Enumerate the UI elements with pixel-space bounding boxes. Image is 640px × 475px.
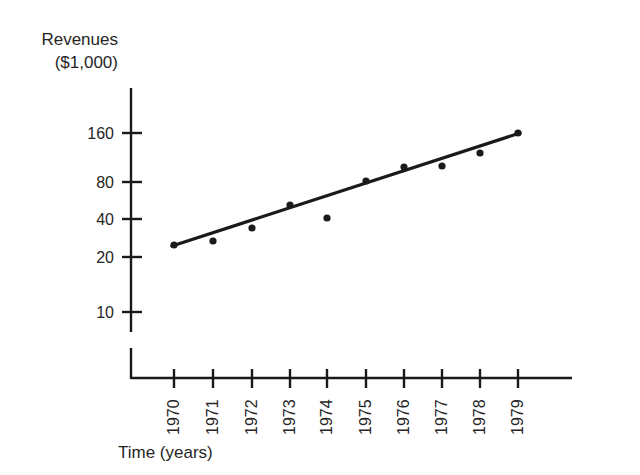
data-point	[209, 237, 216, 244]
y-tick-label-20: 20	[62, 250, 114, 266]
data-point	[248, 224, 255, 231]
y-tick-label-80: 80	[62, 175, 114, 191]
data-point	[514, 129, 521, 136]
x-tick-label-1974: 1974	[319, 399, 335, 435]
data-point	[476, 149, 483, 156]
x-tick-label-1978: 1978	[472, 399, 488, 435]
data-point	[400, 163, 407, 170]
trend-line	[172, 133, 520, 246]
x-tick-label-1973: 1973	[282, 399, 298, 435]
data-point	[438, 162, 445, 169]
x-tick-label-1977: 1977	[434, 399, 450, 435]
y-tick-label-160: 160	[62, 126, 114, 142]
data-point	[286, 201, 293, 208]
revenue-trend-chart: Revenues ($1,000)	[0, 0, 640, 475]
x-tick-label-1971: 1971	[205, 399, 221, 435]
data-point	[170, 241, 177, 248]
data-point	[323, 214, 330, 221]
x-tick-label-1972: 1972	[244, 399, 260, 435]
x-tick-label-1979: 1979	[510, 399, 526, 435]
y-tick-label-40: 40	[62, 212, 114, 228]
x-tick-label-1976: 1976	[396, 399, 412, 435]
x-axis-title: Time (years)	[118, 443, 213, 463]
x-tick-label-1970: 1970	[166, 399, 182, 435]
data-point	[362, 177, 369, 184]
y-tick-label-10: 10	[62, 305, 114, 321]
x-tick-label-1975: 1975	[358, 399, 374, 435]
